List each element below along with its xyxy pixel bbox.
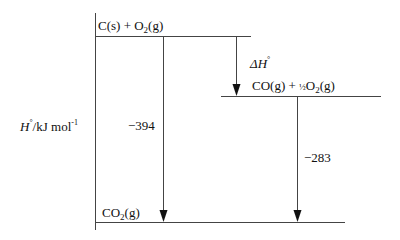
value-394: −394 [128,119,155,132]
product-text: CO [102,205,120,220]
reactant-state: (g) [148,18,163,33]
intermediate-text: CO(g) + [252,78,299,93]
value-283: −283 [304,151,331,164]
delta-h-label: ΔH° [250,56,270,70]
delta-h-standard-mark: ° [267,55,270,64]
reactant-text: C(s) + O [98,18,144,33]
arrow-394-icon [160,37,168,223]
arrow-283-icon [294,97,302,223]
axis-label: H°/kJ mol-1 [20,119,78,133]
arrow-delta-h-icon [233,37,241,97]
product-label: CO2(g) [102,206,140,222]
axis-exponent: -1 [71,118,78,127]
product-state: (g) [125,205,140,220]
intermediate-fraction: ½ [299,82,306,92]
intermediate-state: (g) [320,78,335,93]
axis-symbol: H [20,119,29,134]
intermediate-label: CO(g) + ½O2(g) [252,79,335,95]
intermediate-oxygen: O [306,78,315,93]
delta-h-symbol: ΔH [250,56,267,71]
axis-unit: /kJ mol [33,119,72,134]
reactant-label: C(s) + O2(g) [98,19,163,35]
